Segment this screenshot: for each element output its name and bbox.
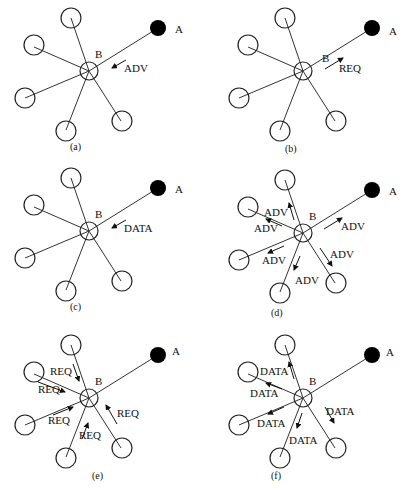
message-label: ADV <box>341 220 365 232</box>
panel-a: B A ADV (a) <box>15 8 183 153</box>
panel-d: B A ADV ADV ADV ADV ADV ADV (d) <box>229 170 397 319</box>
message-label: REQ <box>38 383 60 395</box>
message-label: ADV <box>254 222 278 234</box>
source-label: A <box>175 23 183 35</box>
arrow-icon <box>297 413 302 428</box>
arrow-icon <box>294 256 300 270</box>
message-label: DATA <box>289 434 318 446</box>
message-label: DATA <box>124 222 153 234</box>
hub-label: B <box>322 52 329 64</box>
hub-label: B <box>309 375 316 387</box>
message-label: DATA <box>250 387 279 399</box>
hub-label: B <box>95 375 102 387</box>
source-label: A <box>175 183 183 195</box>
source-label: A <box>386 346 394 358</box>
message-label: ADV <box>330 248 354 260</box>
hub-label: B <box>95 208 102 220</box>
hub-label: B <box>95 48 102 60</box>
message-label: DATA <box>257 417 286 429</box>
message-label: REQ <box>50 365 72 377</box>
panel-caption: (d) <box>271 307 283 319</box>
message-label: ADV <box>124 62 148 74</box>
message-label: ADV <box>295 274 319 286</box>
source-label: A <box>389 25 397 37</box>
message-label: REQ <box>117 407 139 419</box>
message-label: DATA <box>260 365 289 377</box>
panel-caption: (f) <box>271 470 281 482</box>
message-label: ADV <box>264 206 288 218</box>
message-label: ADV <box>262 254 286 266</box>
message-label: REQ <box>79 429 101 441</box>
panel-c: B A DATA (c) <box>15 168 183 313</box>
panel-caption: (b) <box>285 143 297 155</box>
panel-b: B A REQ (b) <box>229 8 397 155</box>
panel-caption: (c) <box>70 301 81 313</box>
message-label: REQ <box>48 414 70 426</box>
arrow-icon <box>268 407 284 414</box>
spin-protocol-diagram: B A ADV (a) B A REQ (b) B A DATA (c) B A… <box>0 0 404 492</box>
arrow-icon <box>106 405 117 424</box>
hub-label: B <box>309 210 316 222</box>
panel-f: B A DATA DATA DATA DATA DATA (f) <box>229 335 394 482</box>
panel-e: B A REQ REQ REQ REQ REQ (e) <box>15 335 180 482</box>
message-label: REQ <box>339 62 361 74</box>
source-label: A <box>172 345 180 357</box>
arrow-icon <box>324 218 342 229</box>
panel-caption: (a) <box>70 141 81 153</box>
source-label: A <box>389 185 397 197</box>
panel-caption: (e) <box>92 470 103 482</box>
message-label: DATA <box>326 405 355 417</box>
